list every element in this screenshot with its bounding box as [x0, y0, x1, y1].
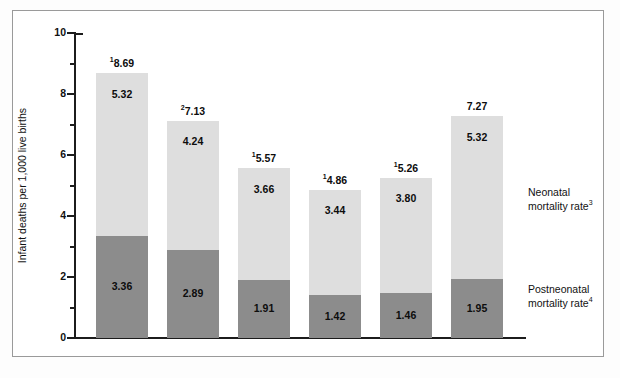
bar-group[interactable]: 3.441.4214.8630–34 — [309, 190, 361, 338]
bar-total-label: 27.13 — [161, 104, 225, 116]
bar-label-neonatal: 3.44 — [309, 205, 361, 216]
y-tick-label: 0 — [40, 332, 66, 343]
bar-total-value: 7.27 — [467, 100, 487, 112]
bar-group[interactable]: 3.801.4615.2635–39 — [380, 178, 432, 338]
y-tick-label: 10 — [40, 27, 66, 38]
bar-total-label: 14.86 — [303, 173, 367, 185]
legend-neonatal-line1: Neonatal — [528, 186, 570, 198]
bar-label-postneonatal: 1.91 — [238, 303, 290, 314]
bar-label-neonatal: 3.66 — [238, 184, 290, 195]
y-axis-labels: 0246810 — [36, 0, 66, 378]
bar-total-label: 18.69 — [90, 56, 154, 68]
bar-label-postneonatal: 3.36 — [96, 281, 148, 292]
y-tick-label: 4 — [40, 210, 66, 221]
bar-label-neonatal: 4.24 — [167, 136, 219, 147]
bar-total-value: 5.57 — [256, 152, 276, 164]
bar-group[interactable]: 4.242.8927.1320–24 — [167, 121, 219, 338]
chart-figure: Infant deaths per 1,000 live births 0246… — [0, 0, 620, 378]
legend-postneonatal-line2: mortality rate — [528, 297, 589, 309]
bar-label-neonatal: 5.32 — [451, 132, 503, 143]
bar-group[interactable]: 5.323.3618.69Under 20 — [96, 73, 148, 338]
legend-neonatal-marker: 3 — [589, 199, 593, 206]
bar-label-neonatal: 3.80 — [380, 193, 432, 204]
legend-postneonatal-line1: Postneonatal — [528, 283, 589, 295]
y-tick-label: 2 — [40, 271, 66, 282]
bar-label-postneonatal: 1.42 — [309, 311, 361, 322]
bar-label-neonatal: 5.32 — [96, 89, 148, 100]
bar-group[interactable]: 3.661.9115.5725–29 — [238, 168, 290, 338]
bar-label-postneonatal: 2.89 — [167, 288, 219, 299]
y-tick-label: 6 — [40, 149, 66, 160]
legend-item-postneonatal: Postneonatal mortality rate4 — [528, 283, 593, 310]
y-axis-title: Infant deaths per 1,000 live births — [16, 33, 28, 338]
plot-area: 5.323.3618.69Under 204.242.8927.1320–243… — [74, 33, 512, 338]
y-tick-label: 8 — [40, 88, 66, 99]
bar-total-value: 4.86 — [327, 173, 347, 185]
bar-total-label: 15.57 — [232, 151, 296, 163]
bar-group[interactable]: 5.321.957.2740 and over — [451, 116, 503, 338]
bar-total-label: 7.27 — [445, 101, 509, 112]
bar-total-value: 7.13 — [185, 104, 205, 116]
legend-item-neonatal: Neonatal mortality rate3 — [528, 186, 593, 213]
legend-postneonatal-marker: 4 — [589, 296, 593, 303]
legend-neonatal-line2: mortality rate — [528, 200, 589, 212]
bar-label-postneonatal: 1.95 — [451, 303, 503, 314]
bar-total-value: 5.26 — [398, 161, 418, 173]
bar-total-label: 15.26 — [374, 161, 438, 173]
bar-total-value: 8.69 — [114, 56, 134, 68]
bar-label-postneonatal: 1.46 — [380, 310, 432, 321]
